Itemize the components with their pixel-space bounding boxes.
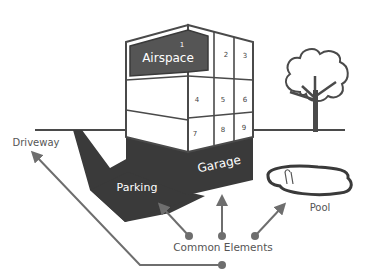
connector-parking — [162, 207, 193, 240]
pool-icon — [268, 166, 351, 195]
unit-number-5: 5 — [221, 96, 225, 104]
common-elements-label: Common Elements — [173, 241, 273, 253]
unit-number-9: 9 — [242, 124, 246, 132]
unit-number-6: 6 — [243, 96, 248, 104]
connector-pool — [251, 207, 282, 240]
unit-number-8: 8 — [221, 126, 225, 134]
unit-number-7: 7 — [193, 130, 197, 138]
driveway-label: Driveway — [13, 137, 60, 148]
unit-number-1: 1 — [180, 41, 184, 49]
unit-number-3: 3 — [243, 52, 247, 60]
parking-label: Parking — [117, 181, 158, 194]
pool-label: Pool — [310, 202, 331, 213]
condo-diagram: 1 2 3 4 5 6 7 8 9 Airspace Garage Parkin… — [0, 0, 373, 280]
unit-number-4: 4 — [195, 96, 200, 104]
connector-garage — [218, 200, 226, 240]
unit-number-2: 2 — [224, 51, 228, 59]
tree-icon — [286, 49, 348, 132]
airspace-label: Airspace — [142, 51, 194, 65]
